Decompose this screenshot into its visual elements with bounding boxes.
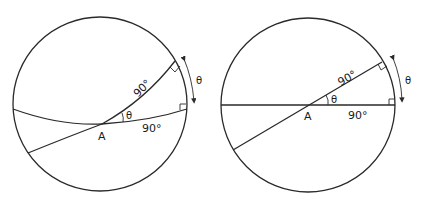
angle-theta-label: θ (331, 94, 337, 105)
point-A-label: A (98, 130, 106, 143)
diameter-inclined (233, 62, 382, 150)
point-A-label: A (304, 110, 312, 123)
rim-theta-label: θ (196, 75, 202, 86)
arc-upper-90-label: 90° (131, 77, 154, 100)
angle-arc-at-A (326, 95, 328, 105)
rim-double-arrow (184, 59, 194, 101)
angle-theta-label: θ (126, 110, 132, 121)
arc-lower-90-label: 90° (348, 109, 368, 122)
panel-flat-view: A θ 90° 90° θ (221, 18, 411, 192)
diagram-canvas: A θ 90° 90° θ A θ 90° 90° θ (0, 0, 422, 205)
rim-theta-label: θ (405, 75, 411, 86)
angle-arc-at-A (122, 113, 123, 122)
arc-lower-90-label: 90° (142, 122, 162, 135)
sphere-outline (13, 17, 187, 191)
panel-sphere-view: A θ 90° 90° θ (13, 17, 202, 191)
arc-upper-90-label: 90° (336, 68, 359, 89)
right-angle-marker-lower (389, 99, 395, 105)
